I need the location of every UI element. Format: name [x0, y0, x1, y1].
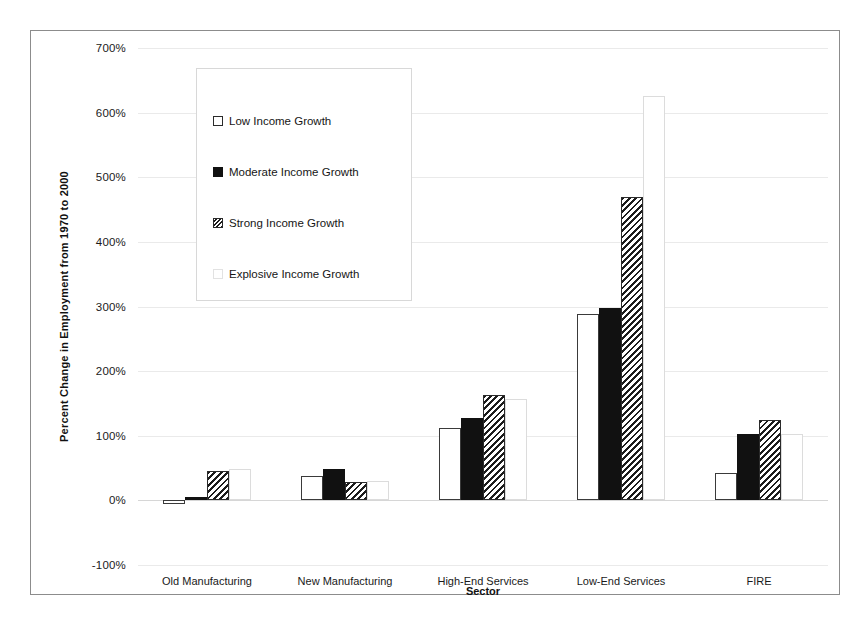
- bar[interactable]: [483, 395, 505, 500]
- legend-swatch-icon: [213, 167, 223, 177]
- x-axis-title: Sector: [138, 585, 828, 597]
- legend-label: Explosive Income Growth: [229, 268, 359, 280]
- bar-group: FIRE: [690, 48, 828, 565]
- bar[interactable]: [643, 96, 665, 500]
- bar[interactable]: [781, 434, 803, 501]
- y-tick-label: 300%: [96, 301, 126, 313]
- bar[interactable]: [163, 500, 185, 503]
- bar[interactable]: [301, 476, 323, 501]
- bar[interactable]: [577, 314, 599, 500]
- bar[interactable]: [207, 471, 229, 500]
- legend-swatch-icon: [213, 218, 223, 228]
- y-tick-label: 500%: [96, 171, 126, 183]
- bar[interactable]: [229, 469, 251, 500]
- chart-legend: Low Income GrowthModerate Income GrowthS…: [196, 68, 412, 301]
- legend-label: Moderate Income Growth: [229, 166, 359, 178]
- legend-label: Strong Income Growth: [229, 217, 344, 229]
- y-tick-label: 700%: [96, 42, 126, 54]
- bar[interactable]: [185, 497, 207, 500]
- legend-item[interactable]: Low Income Growth: [213, 95, 411, 146]
- chart-figure: Percent Change in Employment from 1970 t…: [0, 0, 864, 625]
- bar[interactable]: [439, 428, 461, 500]
- y-tick-label: -100%: [92, 559, 126, 571]
- bar[interactable]: [759, 420, 781, 501]
- bar[interactable]: [621, 197, 643, 501]
- legend-item[interactable]: Explosive Income Growth: [213, 248, 411, 299]
- bar[interactable]: [323, 469, 345, 500]
- bar-group: High-End Services: [414, 48, 552, 565]
- y-tick-label: 600%: [96, 107, 126, 119]
- bar[interactable]: [599, 308, 621, 500]
- bar[interactable]: [737, 434, 759, 501]
- bar[interactable]: [505, 399, 527, 500]
- legend-label: Low Income Growth: [229, 115, 331, 127]
- legend-swatch-icon: [213, 269, 223, 279]
- bar[interactable]: [367, 481, 389, 500]
- bar[interactable]: [461, 418, 483, 501]
- legend-item[interactable]: Moderate Income Growth: [213, 146, 411, 197]
- y-axis-title: Percent Change in Employment from 1970 t…: [56, 48, 72, 565]
- legend-swatch-icon: [213, 116, 223, 126]
- legend-item[interactable]: Strong Income Growth: [213, 197, 411, 248]
- bar[interactable]: [345, 482, 367, 500]
- y-tick-label: 200%: [96, 365, 126, 377]
- gridline--100: [138, 565, 828, 566]
- bar[interactable]: [715, 473, 737, 501]
- y-tick-label: 400%: [96, 236, 126, 248]
- bar-group: Low-End Services: [552, 48, 690, 565]
- y-tick-label: 100%: [96, 430, 126, 442]
- y-tick-label: 0%: [109, 494, 126, 506]
